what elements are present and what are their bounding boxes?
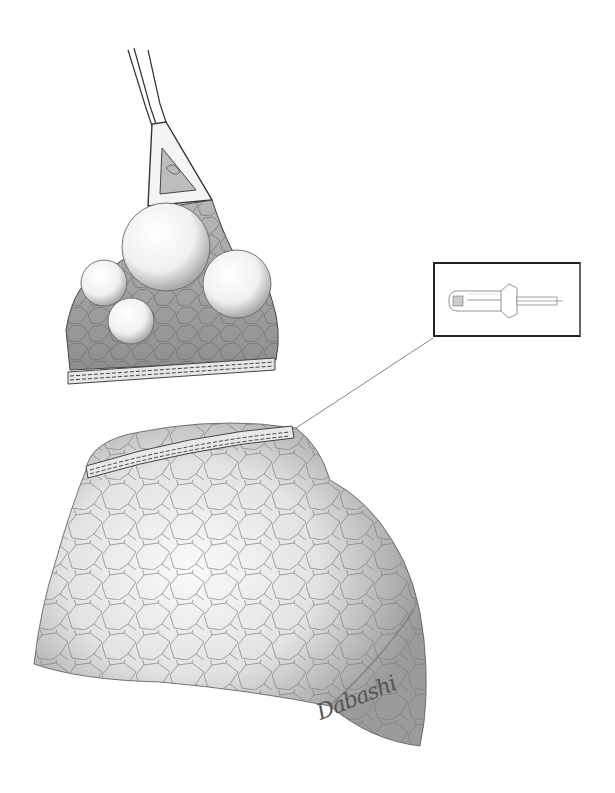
- resected-bullous-specimen: [66, 200, 278, 384]
- bulla-large: [122, 203, 210, 291]
- bulla-left: [81, 260, 127, 306]
- bulla-right: [203, 250, 271, 318]
- leader-line: [290, 338, 433, 432]
- bulla-small: [108, 298, 154, 344]
- stapler-inset: [433, 262, 581, 337]
- linear-stapler-icon: [435, 264, 579, 335]
- bullectomy-illustration: [0, 0, 615, 793]
- forceps: [128, 48, 212, 206]
